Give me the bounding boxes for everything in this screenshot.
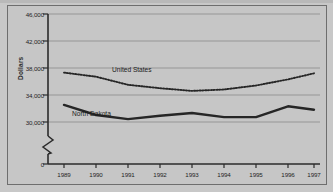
scan-edge-strip xyxy=(0,0,333,3)
x-tick-label-1997: 1997 xyxy=(299,171,329,178)
x-tick-label-1993: 1993 xyxy=(177,171,207,178)
y-tick-label-46000: 46,000 xyxy=(4,11,44,18)
zigzag-break-icon xyxy=(43,136,53,154)
chart-frame: Dollars 46,000 42,000 38,000 34,000 30,0… xyxy=(7,5,327,185)
x-tick-label-1991: 1991 xyxy=(113,171,143,178)
gridlines xyxy=(48,14,320,122)
x-tick-label-1995: 1995 xyxy=(241,171,271,178)
x-tick-label-1992: 1992 xyxy=(145,171,175,178)
y-tick-label-0: 0 xyxy=(4,161,44,168)
line-chart-svg xyxy=(8,6,326,184)
x-tick-label-1994: 1994 xyxy=(209,171,239,178)
y-tick-label-34000: 34,000 xyxy=(4,92,44,99)
series-label-north-dakota: North Dakota xyxy=(72,110,111,117)
plot-area: Dollars 46,000 42,000 38,000 34,000 30,0… xyxy=(8,6,326,184)
screenshot-canvas: Dollars 46,000 42,000 38,000 34,000 30,0… xyxy=(0,0,333,192)
series-line-united-states xyxy=(64,73,314,91)
series-label-united-states: United States xyxy=(112,66,152,73)
y-tick-label-42000: 42,000 xyxy=(4,38,44,45)
y-tick-label-30000: 30,000 xyxy=(4,119,44,126)
x-tick-label-1990: 1990 xyxy=(81,171,111,178)
y-tick-label-38000: 38,000 xyxy=(4,65,44,72)
x-tick-label-1989: 1989 xyxy=(49,171,79,178)
